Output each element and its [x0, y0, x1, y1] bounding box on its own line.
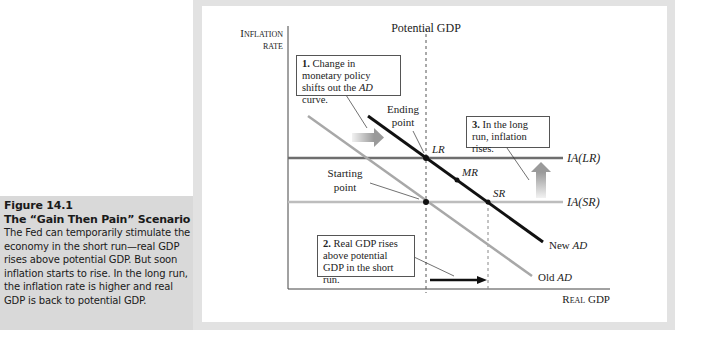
ia-sr-label: IA(SR) — [566, 195, 600, 209]
point-mr — [455, 178, 460, 183]
shift-up-arrow-icon — [531, 162, 551, 198]
gain-then-pain-diagram: Inflation rate Real GDP Potential GDP En… — [0, 0, 703, 341]
starting-point-label-1: Starting — [328, 167, 363, 179]
point-sr — [486, 200, 491, 205]
lr-label: LR — [431, 143, 445, 155]
y-axis-label-line1: Inflation — [240, 27, 283, 39]
sr-label: SR — [493, 187, 506, 199]
ia-lr-label: IA(LR) — [566, 151, 600, 165]
note3-leader — [507, 148, 529, 180]
point-starting — [423, 199, 429, 205]
ending-point-label-1: Ending — [387, 103, 419, 115]
shift-right-arrow-icon — [352, 128, 384, 147]
gdp-rise-arrow-icon — [430, 276, 487, 284]
mr-label: MR — [461, 166, 478, 178]
note-3-inflation-rises: 3. In the long run, inflation rises. — [466, 116, 550, 148]
note1-leader — [346, 95, 367, 128]
new-ad-label: New AD — [549, 239, 587, 251]
note2-leader — [414, 257, 454, 276]
ending-point-label-2: point — [392, 116, 415, 128]
potential-gdp-label: Potential GDP — [391, 21, 461, 35]
note-2-real-gdp-rises: 2. Real GDP rises above potential GDP in… — [317, 235, 415, 277]
old-ad-label: Old AD — [538, 271, 572, 283]
x-axis-label: Real GDP — [562, 293, 610, 305]
y-axis-label-line2: rate — [263, 39, 283, 51]
starting-point-label-2: point — [334, 181, 357, 193]
note-1-monetary-policy: 1. Change in monetary policy shifts out … — [296, 55, 401, 96]
point-lr — [423, 155, 429, 161]
